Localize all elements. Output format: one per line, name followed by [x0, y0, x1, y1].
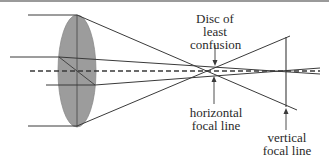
label-disc-of-least-confusion: Disc of least confusion	[190, 12, 240, 51]
label-horizontal-focal-line: horizontal focal line	[186, 106, 246, 132]
horizontal-arrow-head	[212, 76, 217, 82]
vertical-arrow-head	[284, 108, 289, 114]
label-horizontal-line2: focal line	[186, 119, 246, 132]
label-vertical-line2: focal line	[260, 144, 314, 157]
outgoing-ray-bottom	[77, 36, 290, 126]
disc-arrow-head	[213, 60, 218, 66]
label-vertical-focal-line: vertical focal line	[260, 131, 314, 157]
outgoing-ray-top	[77, 15, 297, 110]
label-disc-line3: confusion	[190, 38, 240, 51]
